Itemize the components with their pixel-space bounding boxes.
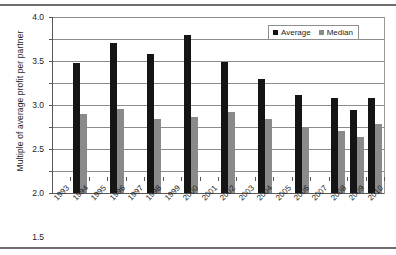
x-axis-tick — [200, 177, 201, 181]
bar-median-2002 — [228, 112, 235, 193]
y-axis-tick: 3.0 — [49, 61, 53, 62]
y-axis-tick: 2.5 — [49, 83, 53, 84]
bar-median-1994 — [80, 114, 87, 193]
plot-area: 0.00.51.01.52.02.53.03.54.0 — [52, 17, 385, 194]
x-axis-tick — [292, 177, 293, 181]
x-axis-tick — [218, 177, 219, 181]
chart-legend: Average Median — [268, 25, 359, 40]
bar-average-1996 — [110, 43, 117, 193]
bar-average-2004 — [258, 79, 265, 193]
x-axis-tick — [236, 177, 237, 181]
y-axis-tick: 1.5 — [49, 127, 53, 128]
y-axis-tick: 0.5 — [49, 171, 53, 172]
gridline — [53, 61, 385, 62]
y-axis-tick: 1.0 — [49, 149, 53, 150]
x-axis-tick — [347, 177, 348, 181]
bar-average-2010 — [368, 98, 375, 193]
y-axis-tick: 4.0 — [49, 17, 53, 18]
x-axis-tick — [329, 177, 330, 181]
bar-median-1996 — [117, 109, 124, 193]
bar-average-1994 — [73, 63, 80, 193]
plot-right-border — [384, 17, 385, 194]
gridline — [53, 83, 385, 84]
legend-label-median: Median — [327, 28, 353, 37]
x-axis-tick — [144, 177, 145, 181]
y-axis-tick: 3.5 — [49, 39, 53, 40]
y-axis-tick: 2.0 — [49, 105, 53, 106]
y-axis-tick-label: 4.0 — [32, 12, 44, 22]
x-axis-tick — [181, 177, 182, 181]
x-axis-tick — [70, 177, 71, 181]
x-axis-tick — [310, 177, 311, 181]
x-axis-tick — [89, 177, 90, 181]
bar-median-2004 — [265, 119, 272, 193]
y-axis-tick-label: 1.5 — [32, 232, 44, 242]
gray-square-swatch-icon — [319, 30, 324, 35]
legend-item-median: Median — [319, 28, 353, 37]
x-axis-tick — [107, 177, 108, 181]
page-rule-bottom — [0, 247, 396, 249]
x-axis-tick — [126, 177, 127, 181]
y-axis-tick-label: 3.5 — [32, 56, 44, 66]
bar-average-2009 — [350, 110, 357, 193]
y-axis-tick-label: 2.5 — [32, 144, 44, 154]
legend-item-average: Average — [273, 28, 311, 37]
bar-average-2000 — [184, 35, 191, 193]
gridline — [53, 17, 385, 18]
x-axis-tick — [366, 177, 367, 181]
bar-average-2002 — [221, 62, 228, 193]
y-axis-title: Multiple of average profit per partner — [15, 11, 25, 191]
black-square-swatch-icon — [273, 30, 278, 35]
bar-average-2006 — [295, 95, 302, 193]
legend-label-average: Average — [281, 28, 311, 37]
bar-average-1998 — [147, 54, 154, 193]
page-rule-top — [0, 4, 396, 6]
x-axis-tick — [384, 177, 385, 181]
bar-median-1998 — [154, 119, 161, 193]
bar-average-2008 — [331, 98, 338, 193]
bar-median-2000 — [191, 117, 198, 193]
x-axis-tick — [255, 177, 256, 181]
x-axis-tick — [273, 177, 274, 181]
y-axis-tick-label: 3.0 — [32, 100, 44, 110]
x-axis-tick — [163, 177, 164, 181]
y-axis-tick-label: 2.0 — [32, 188, 44, 198]
profit-per-partner-bar-chart: Multiple of average profit per partner 0… — [0, 0, 396, 255]
